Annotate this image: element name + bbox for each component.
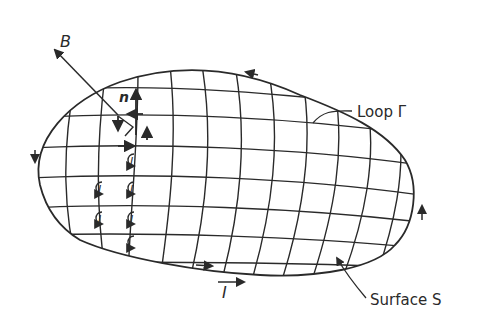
current-label: I <box>222 283 227 302</box>
diagram-canvas: B n I I I I I <box>0 0 487 330</box>
arrow-icon <box>246 72 258 75</box>
surface-label: Surface S <box>370 291 441 309</box>
svg-text:I: I <box>130 155 133 168</box>
b-vector-label: B <box>60 32 71 51</box>
arrow-icon <box>196 265 212 266</box>
svg-text:I: I <box>98 183 101 196</box>
loop-label: Loop Γ <box>357 103 407 121</box>
stokes-diagram: B n I I I I I <box>0 0 487 330</box>
normal-vector-label: n <box>119 89 129 105</box>
svg-text:I: I <box>130 213 133 226</box>
svg-text:I: I <box>130 183 133 196</box>
loop-outline <box>38 70 413 275</box>
svg-text:I: I <box>98 213 101 226</box>
